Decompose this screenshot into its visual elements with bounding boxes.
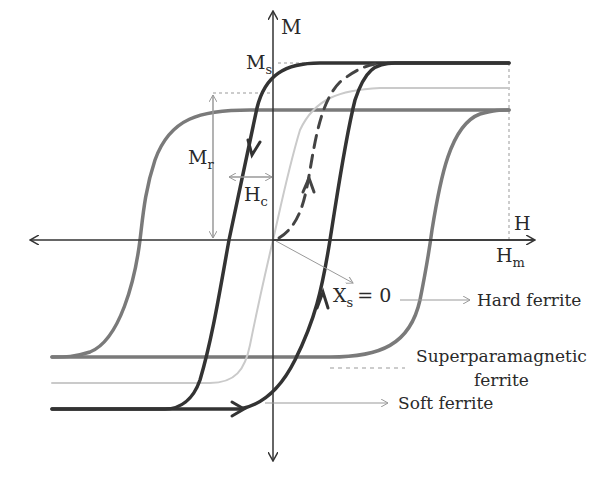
h-axis-label: H [514, 212, 531, 234]
direction-arrows [232, 140, 328, 416]
mr-label: Mr [188, 146, 214, 172]
soft-ferrite-label: Soft ferrite [398, 393, 493, 413]
callout-arrows [265, 241, 470, 403]
hard-ferrite-label: Hard ferrite [477, 290, 581, 310]
hm-label: Hm [496, 244, 525, 270]
superparamagnetic-label-line1: Superparamagnetic [416, 346, 587, 366]
hc-label: Hc [244, 183, 268, 209]
xs-callout [276, 241, 353, 283]
hard-ferrite-loop [52, 110, 509, 357]
hysteresis-diagram: M H Ms Mr Hc Hm Xs= 0 Hard ferrite Super… [0, 0, 614, 477]
xs-label: Xs= 0 [333, 284, 391, 310]
superparamagnetic-label-line2: ferrite [474, 370, 529, 390]
m-axis-label: M [281, 15, 301, 39]
arrow-down-icon [248, 140, 260, 155]
ms-label: Ms [246, 51, 272, 77]
